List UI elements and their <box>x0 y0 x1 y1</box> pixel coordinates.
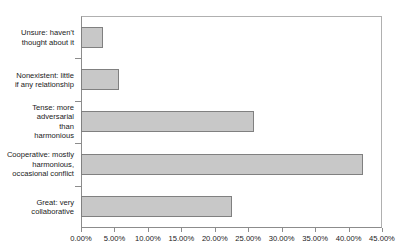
category-label-line: Great: very <box>0 197 74 206</box>
bar-row <box>81 101 382 143</box>
category-label-line: thought about it <box>0 37 74 46</box>
category-label-line: if any relationship <box>0 80 74 89</box>
category-label-line: occasional conflict <box>0 169 74 178</box>
category-label-line: than <box>0 122 74 131</box>
category-label: Great: verycollaborative <box>0 197 74 216</box>
bar-row <box>81 16 382 58</box>
value-axis-label: 25.00% <box>235 234 261 243</box>
value-axis-label: 5.00% <box>104 234 126 243</box>
bar <box>81 111 254 132</box>
bar <box>81 69 119 90</box>
value-axis-tick <box>248 228 249 232</box>
bar-series <box>81 16 382 228</box>
category-label: Tense: moreadversarialthanharmonious <box>0 103 74 141</box>
value-axis-label: 30.00% <box>269 234 295 243</box>
bar-row <box>81 58 382 100</box>
value-axis-label: 10.00% <box>135 234 161 243</box>
value-axis-label: 35.00% <box>302 234 328 243</box>
value-axis-tick <box>148 228 149 232</box>
category-label: Unsure: haven'tthought about it <box>0 28 74 47</box>
category-label: Nonexistent: littleif any relationship <box>0 70 74 89</box>
value-axis-tick <box>315 228 316 232</box>
value-axis: 0.00%5.00%10.00%15.00%20.00%25.00%30.00%… <box>81 228 382 252</box>
value-axis-tick <box>181 228 182 232</box>
value-axis-tick <box>349 228 350 232</box>
category-label-line: collaborative <box>0 207 74 216</box>
bar <box>81 154 363 175</box>
category-label: Cooperative: mostlyharmonious,occasional… <box>0 150 74 178</box>
category-axis: Unsure: haven'tthought about itNonexiste… <box>0 16 78 228</box>
value-axis-tick <box>114 228 115 232</box>
value-axis-label: 0.00% <box>70 234 92 243</box>
category-label-line: harmonious <box>0 131 74 140</box>
value-axis-tick <box>282 228 283 232</box>
bar <box>81 196 232 217</box>
category-label-line: Unsure: haven't <box>0 28 74 37</box>
value-axis-label: 40.00% <box>336 234 362 243</box>
bar <box>81 27 103 48</box>
bar-row <box>81 143 382 185</box>
value-axis-tick <box>81 228 82 232</box>
category-label-line: harmonious, <box>0 160 74 169</box>
value-axis-tick <box>382 228 383 232</box>
value-axis-label: 45.00% <box>369 234 395 243</box>
category-label-line: adversarial <box>0 113 74 122</box>
category-label-line: Tense: more <box>0 103 74 112</box>
value-axis-tick <box>215 228 216 232</box>
category-label-line: Cooperative: mostly <box>0 150 74 159</box>
bar-chart: Unsure: haven'tthought about itNonexiste… <box>0 0 396 252</box>
category-label-line: Nonexistent: little <box>0 70 74 79</box>
bar-row <box>81 186 382 228</box>
value-axis-label: 20.00% <box>202 234 228 243</box>
value-axis-label: 15.00% <box>168 234 194 243</box>
